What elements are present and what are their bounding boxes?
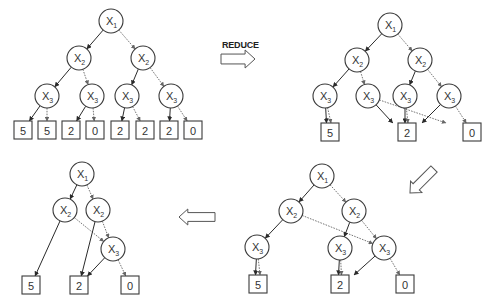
low-edge [455, 106, 466, 123]
low-edge [83, 69, 88, 84]
high-edge [255, 259, 256, 275]
terminal-node: 2 [160, 121, 178, 139]
high-edge [354, 256, 375, 275]
variable-node: X2 [345, 48, 369, 72]
terminal-value: 2 [166, 125, 172, 137]
low-edge [328, 108, 331, 123]
variable-node: X2 [408, 48, 432, 72]
low-edge [428, 69, 442, 86]
terminal-node: 2 [70, 276, 88, 294]
low-edge [87, 185, 93, 199]
high-edge [265, 220, 283, 239]
low-edge [178, 106, 188, 121]
terminal-node: 2 [398, 123, 416, 141]
variable-node: X3 [393, 84, 417, 108]
high-edge [365, 34, 382, 52]
terminal-value: 2 [142, 125, 148, 137]
terminal-node: 2 [62, 121, 80, 139]
high-edge [132, 69, 139, 85]
low-edge [102, 221, 108, 238]
variable-node: X1 [310, 164, 334, 188]
high-edge [70, 185, 77, 199]
variable-node: X3 [101, 237, 125, 261]
terminal-node: 2 [111, 121, 129, 139]
variable-node: X3 [115, 84, 139, 108]
terminal-value: 5 [20, 125, 26, 137]
terminal-node: 0 [121, 276, 139, 294]
terminal-value: 2 [117, 125, 123, 137]
variable-node: X3 [313, 84, 337, 108]
variable-node: X2 [131, 46, 155, 70]
arrow-left-icon [179, 209, 215, 225]
variable-node: X1 [378, 13, 402, 37]
reduced-tree [35, 185, 126, 276]
terminal-node: 0 [463, 123, 481, 141]
variable-node: X3 [245, 235, 269, 259]
terminal-value: 0 [127, 280, 133, 292]
terminal-value: 0 [92, 125, 98, 137]
terminal-node: 5 [14, 121, 32, 139]
high-edge [299, 185, 314, 202]
terminal-value: 5 [327, 127, 333, 139]
terminal-value: 2 [76, 280, 82, 292]
variable-node: X1 [70, 162, 94, 186]
terminal-value: 2 [337, 279, 343, 291]
high-edge [122, 108, 125, 121]
variable-node: X2 [342, 199, 366, 223]
merged-terminals-tree [326, 34, 467, 123]
variable-node: X3 [35, 84, 59, 108]
high-edge [55, 67, 72, 87]
arrow-down-left-icon [404, 163, 439, 198]
high-edge [326, 108, 327, 123]
variable-node: X3 [356, 84, 380, 108]
terminal-value: 0 [190, 125, 196, 137]
high-edge [170, 108, 171, 121]
high-edge [29, 106, 40, 121]
original-tree [29, 30, 187, 121]
terminal-node: 5 [22, 276, 40, 294]
high-edge [77, 106, 86, 121]
terminal-value: 2 [404, 127, 410, 139]
terminal-node: 5 [321, 123, 339, 141]
variable-node: X2 [279, 199, 303, 223]
low-edge [150, 68, 164, 87]
arrow-reduce-icon [221, 50, 255, 68]
variable-node: X3 [328, 236, 352, 260]
high-edge [88, 258, 105, 276]
bdd-reduction-diagram: X1X2X2X3X3X3X355202220X1X2X2X3X3X3X3520X… [0, 0, 491, 305]
high-edge [410, 71, 416, 85]
low-edge [330, 185, 346, 202]
low-edge [390, 258, 400, 275]
variable-node: X2 [67, 46, 91, 70]
variable-node: X3 [372, 236, 396, 260]
terminal-value: 2 [68, 125, 74, 137]
low-edge [362, 220, 377, 238]
high-edge [344, 222, 350, 237]
terminal-node: 2 [331, 275, 349, 293]
variable-node: X3 [80, 84, 104, 108]
variable-node: X2 [86, 198, 110, 222]
variable-node: X3 [437, 84, 461, 108]
high-edge [87, 30, 103, 49]
terminal-node: 5 [38, 121, 56, 139]
low-edge [133, 107, 141, 121]
terminal-node: 2 [136, 121, 154, 139]
terminal-value: 0 [402, 279, 408, 291]
terminal-value: 5 [44, 125, 50, 137]
terminal-node: 0 [396, 275, 414, 293]
variable-node: X2 [53, 198, 77, 222]
variable-node: X3 [159, 84, 183, 108]
terminal-node: 0 [86, 121, 104, 139]
high-edge [333, 69, 349, 87]
low-edge [398, 34, 412, 51]
high-edge [81, 222, 95, 276]
terminal-value: 5 [255, 279, 261, 291]
low-edge [361, 71, 365, 84]
merged-x3-tree [255, 185, 399, 275]
variable-node: X1 [99, 9, 123, 33]
low-edge [341, 260, 342, 275]
low-edge [93, 108, 94, 121]
terminal-value: 0 [469, 127, 475, 139]
terminal-node: 0 [184, 121, 202, 139]
high-edge [339, 260, 340, 275]
